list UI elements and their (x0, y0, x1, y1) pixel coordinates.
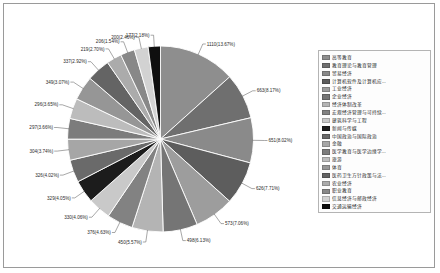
legend-color-swatch-icon (322, 173, 330, 178)
pie-data-label: 376(4.63%) (87, 230, 111, 235)
pie-data-label: 349(3.07%) (46, 80, 70, 85)
legend-item-label: 经济体制改革 (332, 102, 362, 107)
legend-color-swatch-icon (322, 189, 330, 194)
legend-item[interactable]: 新闻与传媒 (322, 125, 428, 133)
legend-item-label: 企业经济 (332, 94, 352, 99)
legend-color-swatch-icon (322, 63, 330, 68)
legend-item[interactable]: 旅游 (322, 156, 428, 164)
pie-leader-line (136, 37, 142, 49)
legend-color-swatch-icon (322, 94, 330, 99)
legend-item[interactable]: 企业经济 (322, 93, 428, 101)
pie-leader-line (180, 229, 186, 241)
pie-slices-group (67, 46, 253, 232)
legend-color-swatch-icon (322, 181, 330, 186)
legend-item[interactable]: 宏观经济管理与可持续... (322, 109, 428, 117)
pie-leader-line (59, 105, 73, 109)
legend-color-swatch-icon (322, 165, 330, 170)
legend-item[interactable]: 教育理论与教育管理 (322, 62, 428, 70)
legend-item-label: 职业教育 (332, 188, 352, 193)
legend-item[interactable]: 医药卫生方针政策与法... (322, 172, 428, 180)
legend-item[interactable]: 建筑科学与工程 (322, 117, 428, 125)
pie-leader-line (242, 91, 256, 97)
pie-leader-line (151, 35, 155, 47)
pie-data-label: 450(5.57%) (118, 240, 142, 245)
legend-item[interactable]: 农业经济 (322, 180, 428, 188)
legend-color-swatch-icon (322, 134, 330, 139)
legend-item[interactable]: 体育 (322, 164, 428, 172)
legend-item-label: 新闻与传媒 (332, 126, 357, 131)
legend-item-label: 体育 (332, 165, 342, 170)
chart-legend: 高等教育教育理论与教育管理贸易经济计算机软件及计算机应...工业经济企业经济经济… (318, 50, 431, 213)
pie-data-label: 297(3.66%) (29, 125, 53, 130)
legend-item-label: 计算机软件及计算机应... (332, 79, 386, 84)
legend-color-swatch-icon (322, 157, 330, 162)
legend-color-swatch-icon (322, 149, 330, 154)
legend-color-swatch-icon (322, 71, 330, 76)
pie-data-label: 1110(13.67%) (207, 42, 236, 47)
legend-item[interactable]: 工业经济 (322, 85, 428, 93)
pie-leader-line (241, 183, 255, 189)
pie-data-label: 337(2.92%) (63, 59, 87, 64)
pie-leader-line (112, 222, 120, 233)
legend-item[interactable]: 中国政治与国际政治 (322, 132, 428, 140)
legend-item[interactable]: 高等教育 (322, 54, 428, 62)
legend-item-label: 宏观经济管理与可持续... (332, 110, 386, 115)
legend-item-label: 贸易经济 (332, 71, 352, 76)
legend-item-label: 信息经济与邮政经济 (332, 196, 377, 201)
legend-color-swatch-icon (322, 204, 330, 209)
legend-item[interactable]: 医学教育与医学边缘学... (322, 148, 428, 156)
legend-item[interactable]: 交通运输经济 (322, 203, 428, 211)
legend-item-label: 建筑科学与工程 (332, 118, 367, 123)
pie-data-label: 330(4.06%) (64, 215, 88, 220)
legend-item[interactable]: 金融 (322, 140, 428, 148)
legend-item[interactable]: 贸易经济 (322, 70, 428, 78)
legend-item-label: 农业经济 (332, 181, 352, 186)
pie-leader-line (106, 49, 115, 59)
legend-item-label: 高等教育 (332, 55, 352, 60)
pie-data-label: 206(1.54%) (96, 39, 120, 44)
legend-item-label: 中国政治与国际政治 (332, 134, 377, 139)
pie-data-label: 573(7.06%) (225, 221, 249, 226)
pie-chart-svg: 1110(13.67%)663(8.17%)651(8.02%)626(7.71… (0, 0, 320, 273)
legend-color-swatch-icon (322, 87, 330, 92)
pie-leader-line (143, 230, 148, 242)
pie-data-label: 626(7.71%) (256, 186, 280, 191)
pie-data-label: 326(4.02%) (35, 173, 59, 178)
pie-leader-line (72, 191, 85, 198)
pie-data-label: 296(3.65%) (35, 102, 59, 107)
chart-screenshot: 1110(13.67%)663(8.17%)651(8.02%)626(7.71… (0, 0, 440, 273)
legend-color-swatch-icon (322, 110, 330, 115)
pie-chart-area: 1110(13.67%)663(8.17%)651(8.02%)626(7.71… (0, 0, 320, 273)
pie-leader-line (214, 214, 224, 224)
legend-color-swatch-icon (322, 55, 330, 60)
pie-data-label: 304(3.74%) (29, 149, 53, 154)
pie-leader-line (89, 208, 100, 217)
pie-data-label: 651(8.02%) (269, 138, 293, 143)
pie-data-label: 177(2.18%) (126, 33, 150, 38)
pie-leader-line (54, 150, 69, 151)
pie-leader-line (121, 42, 128, 53)
legend-color-swatch-icon (322, 102, 330, 107)
pie-leader-line (198, 44, 206, 55)
legend-item[interactable]: 职业教育 (322, 187, 428, 195)
pie-leader-line (88, 62, 99, 71)
legend-color-swatch-icon (322, 141, 330, 146)
pie-data-label: 219(2.70%) (81, 47, 105, 52)
legend-item-label: 金融 (332, 141, 342, 146)
pie-leader-line (54, 128, 69, 129)
legend-item[interactable]: 经济体制改革 (322, 101, 428, 109)
pie-data-label: 329(4.05%) (47, 196, 71, 201)
pie-leader-line (60, 171, 74, 175)
pie-leader-line (70, 82, 83, 89)
legend-item-label: 教育理论与教育管理 (332, 63, 377, 68)
legend-item[interactable]: 信息经济与邮政经济 (322, 195, 428, 203)
pie-data-label: 498(6.13%) (187, 238, 211, 243)
legend-item[interactable]: 计算机软件及计算机应... (322, 78, 428, 86)
legend-color-swatch-icon (322, 118, 330, 123)
legend-color-swatch-icon (322, 196, 330, 201)
legend-item-label: 工业经济 (332, 86, 352, 91)
legend-color-swatch-icon (322, 79, 330, 84)
legend-item-label: 旅游 (332, 157, 342, 162)
legend-item-label: 交通运输经济 (332, 204, 362, 209)
pie-data-label: 663(8.17%) (257, 88, 281, 93)
